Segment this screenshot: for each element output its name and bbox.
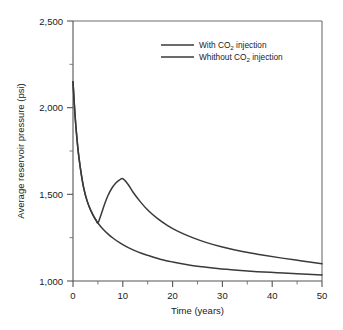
x-tick-label: 30 — [217, 290, 228, 301]
x-tick-label: 40 — [267, 290, 278, 301]
y-tick-label: 2,500 — [39, 16, 63, 27]
y-axis-ticks — [67, 21, 73, 281]
x-tick-label: 10 — [118, 290, 129, 301]
y-axis-title: Average reservoir pressure (psi) — [15, 83, 26, 219]
series-line-without-co2-injection — [73, 82, 322, 275]
y-tick-labels: 2,500 2,000 1,500 1,000 — [39, 16, 63, 287]
x-tick-label: 20 — [167, 290, 178, 301]
x-axis-ticks — [73, 281, 322, 287]
y-tick-label: 1,000 — [39, 276, 63, 287]
x-tick-labels: 0 10 20 30 40 50 — [70, 290, 327, 301]
x-tick-label: 50 — [317, 290, 328, 301]
legend-label-with-co2-injection: With CO2 injection — [199, 40, 267, 51]
legend-label-without-co2-injection: Whithout CO2 injection — [199, 52, 283, 63]
x-axis-title: Time (years) — [171, 305, 224, 316]
chart-legend: With CO2 injection Whithout CO2 injectio… — [161, 40, 283, 63]
y-tick-label: 2,000 — [39, 102, 63, 113]
chart-figure: 2,500 2,000 1,500 1,000 0 10 20 30 40 50… — [0, 0, 343, 330]
x-tick-label: 0 — [70, 290, 75, 301]
line-chart: 2,500 2,000 1,500 1,000 0 10 20 30 40 50… — [0, 0, 343, 330]
y-tick-label: 1,500 — [39, 189, 63, 200]
